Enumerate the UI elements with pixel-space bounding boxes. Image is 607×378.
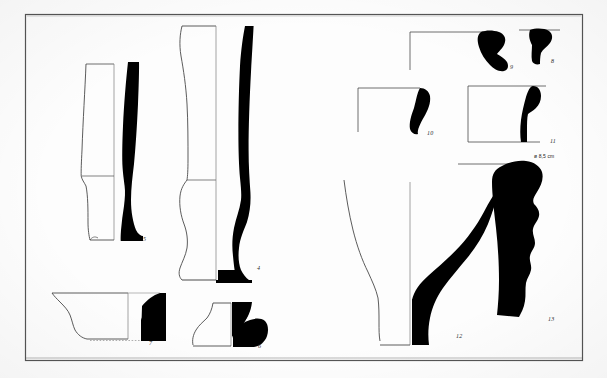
pottery-profile-plate	[0, 0, 607, 378]
object-label-7: 7	[149, 340, 152, 346]
object-label-4: 4	[257, 265, 260, 271]
object-label-12: 12	[456, 333, 462, 339]
object-label-9: 9	[510, 64, 513, 70]
object-label-11: 11	[550, 138, 556, 144]
diameter-annotation: ø 8,5 cm	[534, 153, 554, 159]
object-label-8: 8	[551, 58, 554, 64]
object-label-6: 6	[258, 343, 261, 349]
object-label-5: 5	[143, 236, 146, 242]
object-label-10: 10	[427, 130, 433, 136]
plate-drawing-canvas	[0, 0, 607, 378]
object-label-13: 13	[548, 316, 554, 322]
